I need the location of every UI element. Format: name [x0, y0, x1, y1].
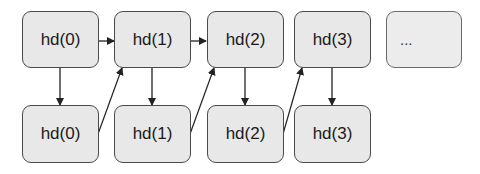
node-top-ellipsis: ... [386, 11, 462, 68]
node-label: ... [400, 31, 413, 48]
node-top-hd2: hd(2) [207, 11, 284, 68]
node-top-hd1: hd(1) [114, 11, 191, 68]
node-label: hd(3) [313, 124, 353, 144]
node-label: hd(2) [226, 30, 266, 50]
node-top-hd0: hd(0) [22, 11, 99, 68]
node-bottom-hd0: hd(0) [22, 105, 99, 163]
node-top-hd3: hd(3) [294, 11, 371, 68]
node-bottom-hd1: hd(1) [114, 105, 191, 163]
node-label: hd(1) [133, 124, 173, 144]
node-label: hd(0) [41, 30, 81, 50]
node-bottom-hd2: hd(2) [207, 105, 284, 163]
node-label: hd(0) [41, 124, 81, 144]
node-bottom-hd3: hd(3) [294, 105, 371, 163]
node-label: hd(1) [133, 30, 173, 50]
node-label: hd(2) [226, 124, 266, 144]
node-label: hd(3) [313, 30, 353, 50]
